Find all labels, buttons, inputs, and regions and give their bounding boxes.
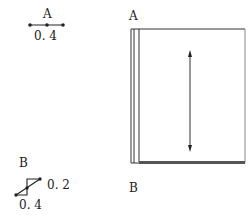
segment-figure-a: [28, 23, 65, 27]
figure-a-label: A: [43, 8, 52, 20]
sheet-label-b: B: [129, 182, 138, 194]
figure-b-label: B: [19, 157, 28, 169]
figure-b-bottom-length: 0. 4: [19, 199, 42, 211]
stacked-sheet-box: [131, 29, 245, 164]
figure-a-length: 0. 4: [34, 30, 57, 42]
folded-figure-b: [14, 177, 41, 196]
figure-b-side-length: 0. 2: [47, 179, 70, 191]
sheet-label-a: A: [129, 10, 138, 22]
double-arrow-vertical: [188, 50, 192, 152]
